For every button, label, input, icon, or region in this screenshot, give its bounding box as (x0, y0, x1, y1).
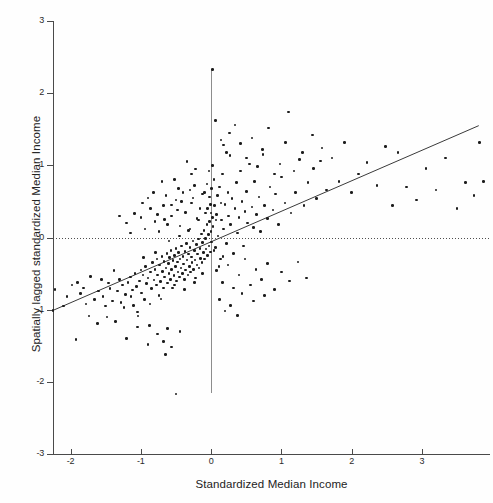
scatter-point (173, 178, 176, 181)
scatter-point (154, 251, 157, 254)
scatter-point (220, 139, 223, 142)
scatter-point (162, 340, 165, 343)
scatter-point (259, 230, 262, 233)
scatter-point (251, 206, 254, 209)
scatter-point (106, 316, 109, 319)
scatter-point (214, 119, 217, 122)
scatter-point (239, 142, 242, 145)
scatter-point (303, 204, 306, 207)
scatter-point (161, 255, 164, 258)
scatter-point (135, 285, 138, 288)
scatter-point (245, 157, 248, 160)
scatter-point (294, 191, 297, 194)
scatter-point (97, 290, 100, 293)
scatter-point (307, 181, 310, 184)
scatter-point (199, 257, 202, 260)
scatter-point (172, 259, 175, 262)
scatter-point (152, 191, 155, 194)
scatter-point (134, 272, 137, 275)
scatter-point (153, 279, 156, 282)
scatter-point (127, 281, 130, 284)
scatter-point (213, 249, 216, 252)
scatter-point (142, 274, 145, 277)
scatter-point (234, 124, 237, 127)
scatter-point (52, 309, 55, 312)
scatter-point (338, 180, 341, 183)
scatter-point (131, 289, 134, 292)
scatter-point (215, 269, 218, 272)
scatter-point (204, 212, 207, 215)
scatter-point (229, 223, 232, 226)
scatter-point (175, 280, 178, 283)
scatter-point (200, 233, 203, 236)
scatter-point (206, 207, 209, 210)
scatter-point (204, 237, 207, 240)
scatter-point (162, 204, 165, 207)
scatter-point (170, 268, 173, 271)
scatter-point (165, 267, 168, 270)
scatter-point (196, 264, 199, 267)
scatter-point (211, 68, 214, 71)
scatter-point (188, 265, 191, 268)
scatter-point (279, 163, 282, 166)
moran-scatterplot-figure: 3210-1-2-3 -2-10123 Standardized Median … (0, 0, 493, 503)
scatter-point (266, 217, 269, 220)
scatter-point (85, 303, 88, 306)
scatter-point (215, 219, 218, 222)
scatter-point (144, 265, 147, 268)
scatter-point (163, 260, 166, 263)
scatter-point (116, 290, 119, 293)
scatter-point (79, 292, 82, 295)
scatter-point (301, 151, 304, 154)
scatter-point (89, 275, 92, 278)
scatter-point (256, 165, 259, 168)
scatter-point (194, 277, 197, 280)
scatter-point (111, 300, 114, 303)
scatter-point (208, 220, 211, 223)
scatter-point (236, 232, 239, 235)
scatter-point (192, 240, 195, 243)
scatter-point (193, 249, 196, 252)
scatter-point (150, 287, 153, 290)
scatter-point (277, 223, 280, 226)
scatter-point (194, 168, 197, 171)
scatter-point (232, 287, 235, 290)
scatter-point (201, 272, 204, 275)
scatter-point (158, 294, 161, 297)
scatter-point (206, 254, 209, 257)
scatter-point (221, 173, 224, 176)
scatter-point (132, 304, 135, 307)
scatter-point (123, 306, 126, 309)
scatter-point (179, 225, 182, 228)
scatter-point (160, 298, 163, 301)
scatter-point (405, 186, 408, 189)
scatter-point (464, 181, 467, 184)
scatter-point (156, 333, 159, 336)
scatter-point (219, 258, 222, 261)
scatter-point (224, 203, 227, 206)
scatter-point (114, 320, 117, 323)
scatter-point (267, 127, 270, 130)
scatter-point (173, 274, 176, 277)
scatter-point (166, 252, 169, 255)
scatter-point (391, 204, 394, 207)
scatter-point (182, 255, 185, 258)
scatter-point (179, 258, 182, 261)
scatter-point (206, 223, 209, 226)
scatter-point (220, 202, 223, 205)
scatter-point (222, 255, 225, 258)
scatter-point (75, 338, 78, 341)
scatter-point (100, 278, 103, 281)
scatter-point (227, 215, 230, 218)
x-axis-title: Standardized Median Income (53, 478, 490, 490)
scatter-point (211, 164, 214, 167)
scatter-point (229, 304, 232, 307)
scatter-point (184, 211, 187, 214)
scatter-point (170, 204, 173, 207)
scatter-point (192, 268, 195, 271)
scatter-point (273, 288, 276, 291)
scatter-point (170, 346, 173, 349)
scatter-point (298, 158, 301, 161)
scatter-point (168, 240, 171, 243)
scatter-point (149, 207, 152, 210)
